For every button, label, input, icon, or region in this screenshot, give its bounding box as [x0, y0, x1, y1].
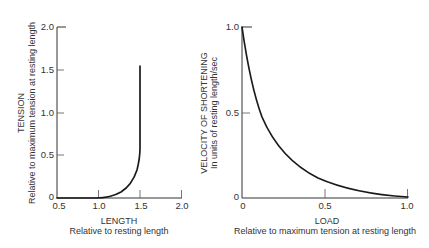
left-y-title: TENSION: [16, 93, 26, 133]
right-ytick-label: 0.5: [226, 107, 239, 118]
right-x-title: LOAD: [315, 216, 340, 226]
right-y-title: VELOCITY OF SHORTENING: [199, 52, 209, 174]
left-y-subtitle: Relative to maximum tension at resting l…: [27, 22, 37, 204]
velocity-curve: [242, 27, 408, 197]
right-y-subtitle: In units of resting length/sec: [209, 56, 219, 169]
right-ytick-label: 1.0: [226, 21, 239, 32]
left-y-axis: [57, 27, 66, 198]
left-ytick-label: 1.0: [41, 107, 54, 118]
right-xtick-label: 0: [240, 200, 245, 211]
right-y-axis: [242, 27, 252, 198]
right-xtick-label: 1.0: [400, 200, 413, 211]
right-x-subtitle: Relative to maximum tension at resting l…: [234, 226, 416, 236]
right-ytick-label: 0: [234, 191, 239, 202]
tension-length-chart: 2.0 1.5 1.0 0.5 0 0.5 1.0 1.5 2.0 LENGTH…: [16, 21, 189, 236]
right-xtick-label: 0.5: [318, 200, 331, 211]
figure: 2.0 1.5 1.0 0.5 0 0.5 1.0 1.5 2.0 LENGTH…: [0, 0, 429, 248]
left-x-subtitle: Relative to resting length: [69, 226, 168, 236]
left-xtick-label: 1.0: [92, 200, 105, 211]
left-ytick-label: 1.5: [41, 64, 54, 75]
left-xtick-label: 1.5: [134, 200, 147, 211]
left-ytick-label: 0.5: [41, 149, 54, 160]
left-ytick-label: 2.0: [41, 21, 54, 32]
left-xtick-label: 0.5: [52, 200, 65, 211]
left-xtick-label: 2.0: [175, 200, 188, 211]
left-x-title: LENGTH: [101, 216, 138, 226]
velocity-load-chart: 1.0 0.5 0 0 0.5 1.0 LOAD Relative to max…: [199, 21, 416, 236]
tension-curve: [57, 66, 140, 198]
